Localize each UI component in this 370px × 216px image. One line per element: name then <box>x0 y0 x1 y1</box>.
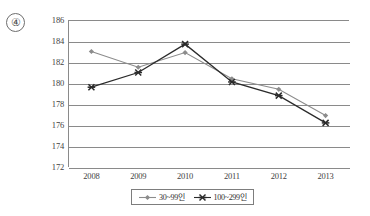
chart-legend: 30~99인100~299인 <box>131 189 254 205</box>
legend-label: 100~299인 <box>214 193 247 202</box>
x-axis-tick-labels: 200820092010201120122013 <box>0 0 370 216</box>
x-axis-tick-label: 2012 <box>259 172 299 181</box>
legend-entry: 100~299인 <box>194 193 247 202</box>
x-axis-tick-label: 2013 <box>306 172 346 181</box>
legend-label: 30~99인 <box>159 193 185 202</box>
x-axis-tick-label: 2010 <box>165 172 205 181</box>
legend-diamond-icon <box>139 193 156 202</box>
data-point-marker-diamond <box>145 194 150 199</box>
line-chart-figure: 186184182180178176174172 200820092010201… <box>0 0 370 216</box>
x-axis-tick-label: 2011 <box>212 172 252 181</box>
x-axis-tick-label: 2008 <box>71 172 111 181</box>
legend-x-icon <box>194 193 211 202</box>
legend-entry: 30~99인 <box>139 193 185 202</box>
x-axis-tick-label: 2009 <box>118 172 158 181</box>
data-point-marker-x <box>198 194 206 200</box>
